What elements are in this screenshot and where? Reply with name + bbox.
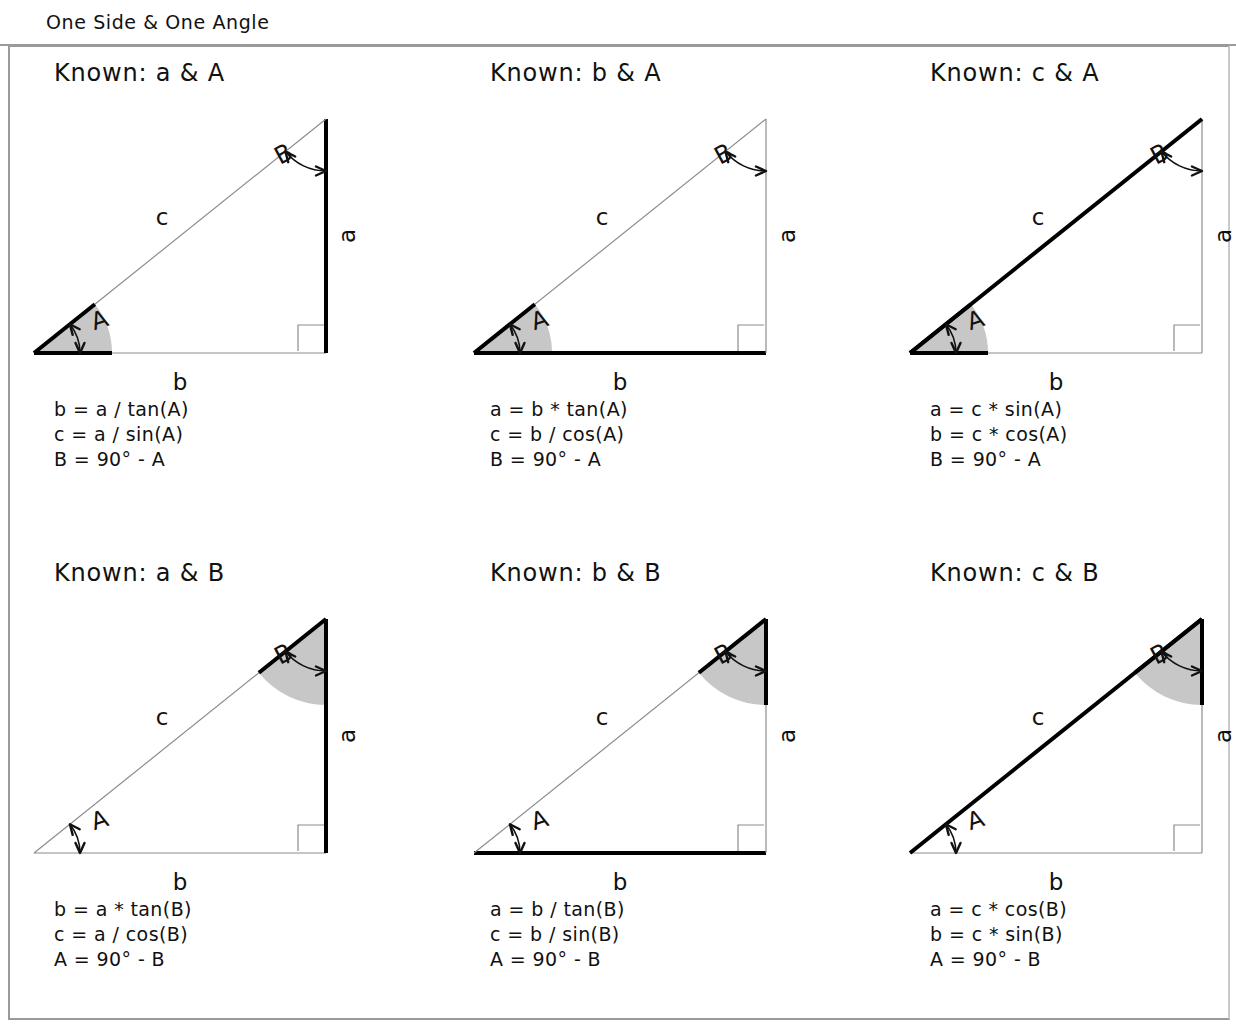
right-angle-marker: [298, 325, 324, 351]
panel-grid: Known: a & AbacABb = a / tan(A)c = a / s…: [8, 45, 1230, 1020]
right-triangle-diagram: bacAB: [16, 101, 376, 401]
panel-title: Known: a & A: [54, 59, 225, 87]
panel-title: Known: c & B: [930, 559, 1099, 587]
triangle-figure: bacAB: [16, 601, 376, 905]
triangle-figure: bacAB: [456, 601, 816, 905]
side-c-label: c: [1032, 204, 1045, 230]
formula-list: a = c * cos(B)b = c * sin(B)A = 90° - B: [930, 897, 1067, 972]
sheet-header: One Side & One Angle: [0, 0, 1236, 45]
side-c-label: c: [156, 704, 169, 730]
side-c-label: c: [596, 704, 609, 730]
angle-a-label: A: [964, 804, 989, 836]
angle-a-label: A: [528, 804, 553, 836]
formula-list: b = a / tan(A)c = a / sin(A)B = 90° - A: [54, 397, 189, 472]
side-b-label: b: [613, 869, 628, 895]
formula-line: A = 90° - B: [930, 947, 1067, 972]
right-triangle-diagram: bacAB: [16, 601, 376, 901]
formula-line: c = a / sin(A): [54, 422, 189, 447]
formula-list: a = b / tan(B)c = b / sin(B)A = 90° - B: [490, 897, 625, 972]
side-c-label: c: [156, 204, 169, 230]
triangle-figure: bacAB: [892, 601, 1236, 905]
panel-title: Known: a & B: [54, 559, 225, 587]
right-triangle-diagram: bacAB: [892, 101, 1236, 401]
side-b-label: b: [1049, 869, 1064, 895]
formula-line: B = 90° - A: [490, 447, 628, 472]
formula-line: a = c * cos(B): [930, 897, 1067, 922]
angle-a-label: A: [88, 804, 113, 836]
triangle-figure: bacAB: [892, 101, 1236, 405]
page-title: One Side & One Angle: [46, 11, 270, 33]
side-c-label: c: [596, 204, 609, 230]
panel-title: Known: c & A: [930, 59, 1099, 87]
side-c-label: c: [1032, 704, 1045, 730]
formula-list: a = c * sin(A)b = c * cos(A)B = 90° - A: [930, 397, 1067, 472]
right-angle-marker: [1174, 325, 1200, 351]
right-triangle-diagram: bacAB: [456, 601, 816, 901]
formula-line: a = b / tan(B): [490, 897, 625, 922]
formula-line: a = b * tan(A): [490, 397, 628, 422]
formula-list: b = a * tan(B)c = a / cos(B)A = 90° - B: [54, 897, 192, 972]
right-triangle-diagram: bacAB: [456, 101, 816, 401]
side-a-label: a: [774, 729, 800, 743]
formula-line: A = 90° - B: [54, 947, 192, 972]
formula-line: b = a / tan(A): [54, 397, 189, 422]
formula-line: c = b / cos(A): [490, 422, 628, 447]
side-b-label: b: [613, 369, 628, 395]
side-a-label: a: [334, 229, 360, 243]
formula-line: A = 90° - B: [490, 947, 625, 972]
right-triangle-diagram: bacAB: [892, 601, 1236, 901]
formula-list: a = b * tan(A)c = b / cos(A)B = 90° - A: [490, 397, 628, 472]
formula-line: a = c * sin(A): [930, 397, 1067, 422]
side-b-label: b: [1049, 369, 1064, 395]
panel-known-b-and-B: Known: b & BbacABa = b / tan(B)c = b / s…: [448, 545, 888, 1020]
panel-known-a-and-B: Known: a & BbacABb = a * tan(B)c = a / c…: [8, 545, 448, 1020]
formula-line: c = b / sin(B): [490, 922, 625, 947]
formula-line: b = a * tan(B): [54, 897, 192, 922]
right-angle-marker: [1174, 825, 1200, 851]
side-a-label: a: [1210, 229, 1236, 243]
right-angle-marker: [738, 325, 764, 351]
side-a-label: a: [334, 729, 360, 743]
side-b-label: b: [173, 369, 188, 395]
side-b-label: b: [173, 869, 188, 895]
side-a-label: a: [1210, 729, 1236, 743]
triangle-figure: bacAB: [16, 101, 376, 405]
formula-line: B = 90° - A: [930, 447, 1067, 472]
formula-line: B = 90° - A: [54, 447, 189, 472]
panel-title: Known: b & A: [490, 59, 661, 87]
triangle-figure: bacAB: [456, 101, 816, 405]
side-a-label: a: [774, 229, 800, 243]
right-angle-marker: [298, 825, 324, 851]
angle-b-label: B: [270, 138, 298, 170]
right-angle-marker: [738, 825, 764, 851]
panel-title: Known: b & B: [490, 559, 661, 587]
panel-known-b-and-A: Known: b & AbacABa = b * tan(A)c = b / c…: [448, 45, 888, 545]
angle-b-label: B: [710, 138, 738, 170]
formula-line: b = c * sin(B): [930, 922, 1067, 947]
formula-line: b = c * cos(A): [930, 422, 1067, 447]
formula-line: c = a / cos(B): [54, 922, 192, 947]
panel-known-c-and-A: Known: c & AbacABa = c * sin(A)b = c * c…: [888, 45, 1230, 545]
panel-known-c-and-B: Known: c & BbacABa = c * cos(B)b = c * s…: [888, 545, 1230, 1020]
panel-known-a-and-A: Known: a & AbacABb = a / tan(A)c = a / s…: [8, 45, 448, 545]
